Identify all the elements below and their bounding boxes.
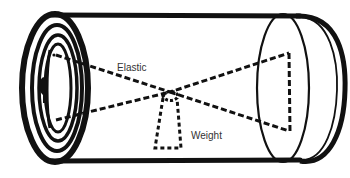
can-left-end <box>22 14 88 162</box>
label-elastic: Elastic <box>117 62 146 73</box>
can-right-end <box>257 14 345 162</box>
comeback-can-diagram: Elastic Weight <box>0 0 350 178</box>
label-weight: Weight <box>191 130 222 141</box>
weight <box>155 92 181 149</box>
